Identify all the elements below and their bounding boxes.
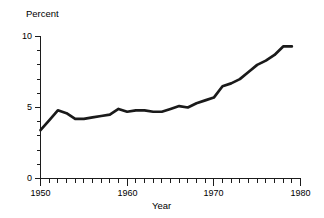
y-axis-title: Percent — [26, 8, 59, 19]
data-line-percent — [41, 46, 292, 130]
x-tick-label-1950: 1950 — [26, 188, 55, 198]
chart-figure: Percent 10 5 0 1950 1960 1970 1980 Year — [0, 0, 324, 218]
y-tick-label-5: 5 — [18, 102, 32, 112]
x-tick-label-1980: 1980 — [286, 188, 315, 198]
y-tick-label-0: 0 — [18, 173, 32, 183]
x-axis-title: Year — [152, 200, 171, 211]
x-axis-minor-ticks — [49, 179, 292, 184]
y-tick-label-10: 10 — [18, 31, 32, 41]
x-tick-label-1960: 1960 — [113, 188, 142, 198]
x-tick-label-1970: 1970 — [199, 188, 228, 198]
y-axis-major-ticks — [35, 37, 41, 179]
line-chart — [0, 0, 324, 218]
